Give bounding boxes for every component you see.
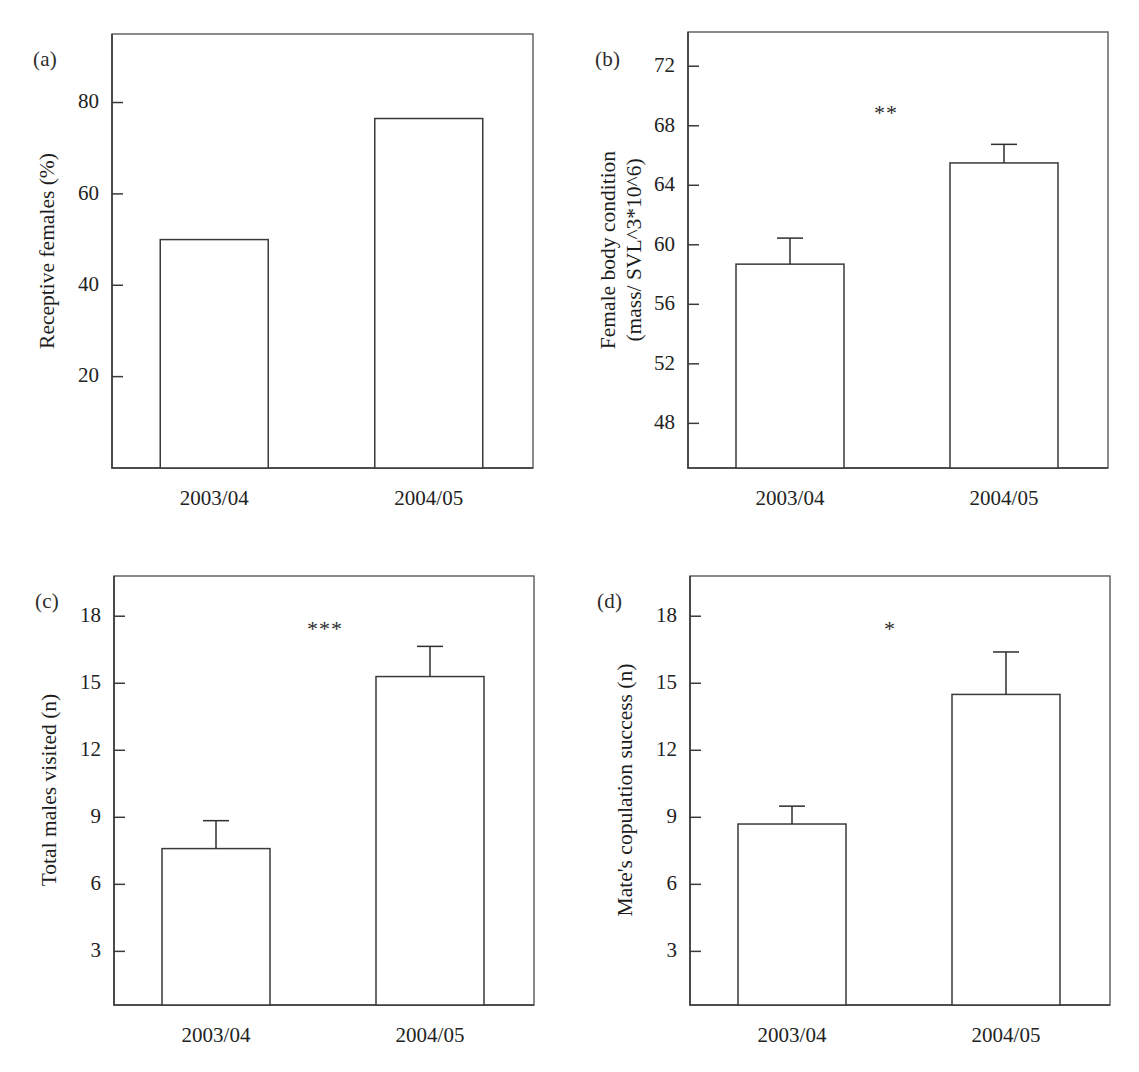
y-axis-title: Mate's copulation success (n) [613,664,637,917]
y-tick-label: 6 [667,871,678,895]
chart-d: 3691215182003/042004/05*Mate's copulatio… [0,0,1139,1072]
y-tick-label: 9 [667,804,678,828]
y-tick-label: 18 [656,603,677,627]
x-category-label: 2004/05 [972,1023,1041,1047]
y-tick-label: 15 [656,670,677,694]
y-tick-label: 12 [656,737,677,761]
bar [738,824,846,1005]
figure-root: (a)204060802003/042004/05Receptive femal… [0,0,1139,1072]
x-category-label: 2003/04 [758,1023,827,1047]
significance-marker: * [884,616,896,641]
bar [952,694,1060,1005]
y-tick-label: 3 [667,938,678,962]
